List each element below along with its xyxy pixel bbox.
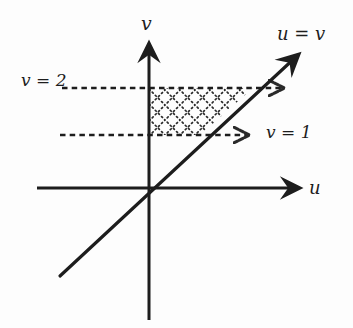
v-axis-label: v	[141, 14, 152, 33]
figure-canvas	[0, 0, 353, 328]
u-axis-label: u	[309, 179, 321, 197]
v-equals-2-label: v = 2	[21, 72, 66, 89]
u-equals-v-label: u = v	[277, 25, 325, 43]
v-equals-1-label: v = 1	[266, 124, 311, 141]
uv-plane-figure: v u u = v v = 2 v = 1	[0, 0, 353, 328]
